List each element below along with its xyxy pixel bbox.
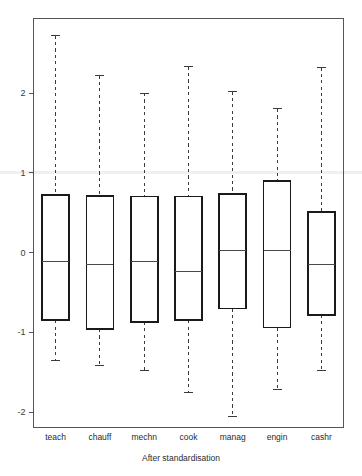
- boxplot-figure: 210-1-2 teachchauffmechncookmanagenginca…: [0, 0, 362, 476]
- x-tick-label-chauff: chauff: [88, 432, 112, 442]
- x-axis-title: After standardisation: [142, 453, 220, 463]
- boxplot-svg: 210-1-2 teachchauffmechncookmanagenginca…: [0, 0, 362, 476]
- x-tick-label-cashr: cashr: [311, 432, 332, 442]
- x-tick-label-manag: manag: [220, 432, 246, 442]
- x-tick-label-mechn: mechn: [131, 432, 157, 442]
- y-tick-label-1: 1: [20, 168, 25, 178]
- box-iqr: [86, 196, 113, 329]
- x-tick-label-teach: teach: [45, 432, 66, 442]
- box-iqr: [264, 181, 291, 328]
- y-tick-label-0: 0: [20, 248, 25, 258]
- box-iqr: [131, 197, 158, 322]
- y-tick-label--1: -1: [17, 327, 25, 337]
- box-iqr: [308, 212, 335, 315]
- y-tick-label-2: 2: [20, 88, 25, 98]
- box-iqr: [175, 197, 202, 321]
- box-iqr: [42, 195, 69, 320]
- x-tick-label-cook: cook: [180, 432, 199, 442]
- x-tick-label-engin: engin: [267, 432, 288, 442]
- y-tick-label--2: -2: [17, 407, 25, 417]
